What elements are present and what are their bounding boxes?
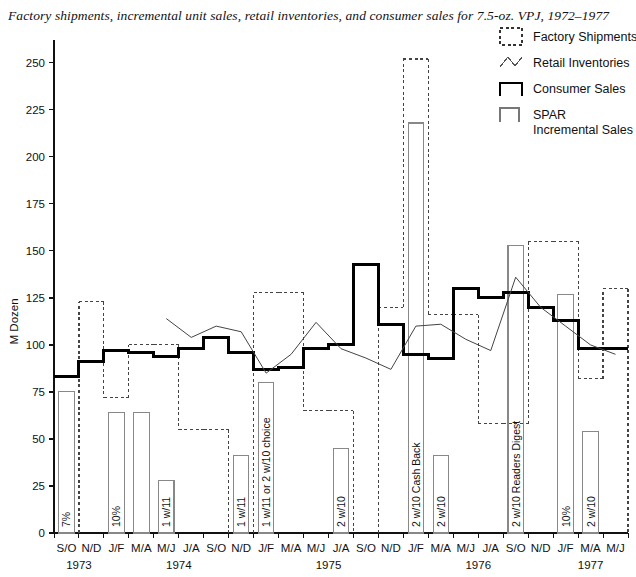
legend-item-factory_shipments: Factory Shipments	[500, 28, 636, 45]
x-tick-label: N/D	[231, 542, 251, 554]
spar-bar-label: 2 w/10	[435, 496, 447, 527]
x-tick-label: J/F	[108, 542, 124, 554]
y-axis-title: M Dozen	[8, 298, 20, 344]
year-group-label: 1973	[66, 559, 92, 571]
spar-bar-label: 7%	[60, 512, 72, 527]
legend-label: Retail Inventories	[533, 56, 630, 70]
chart-svg: 0255075100125150175200225250M DozenS/ON/…	[0, 0, 636, 577]
x-tick-label: M/A	[580, 542, 601, 554]
legend-label: SPAR	[533, 108, 566, 122]
spar-bar-label: 2 w/10 Cash Back	[410, 442, 422, 527]
x-tick-label: S/O	[57, 542, 77, 554]
x-tick-label: N/D	[381, 542, 401, 554]
spar-bar-label: 1 w/11 or 2 w/10 choice	[260, 417, 272, 527]
x-tick-label: J/F	[408, 542, 424, 554]
y-tick-label: 25	[32, 480, 45, 492]
x-tick-label: N/D	[82, 542, 102, 554]
x-tick-label: J/A	[183, 542, 200, 554]
x-tick-label: M/A	[131, 542, 152, 554]
spar-bar-label: 2 w/10 Readers Digest	[510, 421, 522, 527]
year-group-label: 1974	[166, 559, 192, 571]
spar-bar-label: 2 w/10	[335, 496, 347, 527]
y-tick-label: 200	[26, 151, 45, 163]
x-tick-label: S/O	[506, 542, 526, 554]
x-tick-label: M/A	[431, 542, 452, 554]
x-tick-label: M/J	[606, 542, 625, 554]
y-tick-label: 100	[26, 339, 45, 351]
legend-label: Consumer Sales	[533, 82, 625, 96]
legend-swatch-step-icon	[500, 83, 522, 96]
year-group-label: 1976	[465, 559, 491, 571]
spar-bar-label: 1 w/11	[160, 497, 172, 527]
legend-swatch-open-rect-icon	[500, 108, 519, 122]
x-tick-label: S/O	[206, 542, 226, 554]
x-tick-label: J/F	[258, 542, 274, 554]
y-tick-label: 225	[26, 104, 45, 116]
legend-item-spar_incremental: SPARIncremental Sales	[500, 108, 633, 137]
y-tick-label: 250	[26, 57, 45, 69]
consumer-sales-series	[54, 264, 628, 377]
y-tick-label: 50	[32, 433, 45, 445]
x-tick-label: J/A	[482, 542, 499, 554]
legend-label-line2: Incremental Sales	[533, 123, 633, 137]
x-tick-label: S/O	[356, 542, 376, 554]
legend-swatch-dashed-rect-icon	[500, 28, 522, 45]
x-tick-label: J/F	[558, 542, 574, 554]
spar-bar-label: 10%	[560, 506, 572, 527]
year-group-label: 1977	[578, 559, 604, 571]
y-tick-label: 75	[32, 386, 45, 398]
y-tick-label: 150	[26, 245, 45, 257]
y-tick-label: 175	[26, 198, 45, 210]
spar-bar-label: 2 w/10	[585, 496, 597, 527]
legend-swatch-line-icon	[500, 57, 522, 67]
x-tick-label: M/J	[457, 542, 476, 554]
x-tick-label: M/J	[157, 542, 176, 554]
legend-item-consumer_sales: Consumer Sales	[500, 82, 625, 96]
y-tick-label: 0	[39, 527, 45, 539]
y-tick-label: 125	[26, 292, 45, 304]
spar-bar-label: 10%	[110, 506, 122, 527]
spar-bar	[134, 413, 149, 533]
legend-item-retail_inventories: Retail Inventories	[500, 56, 630, 70]
chart-root: Factory shipments, incremental unit sale…	[0, 0, 636, 577]
x-tick-label: J/A	[333, 542, 350, 554]
year-group-label: 1975	[316, 559, 342, 571]
legend-label: Factory Shipments	[533, 30, 636, 44]
x-tick-label: N/D	[531, 542, 551, 554]
x-tick-label: M/A	[281, 542, 302, 554]
x-tick-label: M/J	[307, 542, 326, 554]
spar-bar-label: 1 w/11	[235, 497, 247, 527]
